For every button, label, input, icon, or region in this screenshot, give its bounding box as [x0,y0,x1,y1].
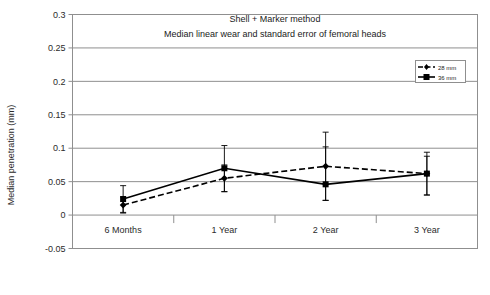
y-tick-label: 0.2 [53,77,66,87]
y-tick-label: -0.05 [45,244,66,254]
plot-frame [73,15,478,249]
legend-label-28mm: 28 mm [438,65,456,71]
y-tick-label: 0.15 [48,110,66,120]
data-point-marker [424,171,430,177]
data-point-marker [323,181,329,187]
x-category-label: 3 Year [414,225,440,235]
median-penetration-line-chart: -0.0500.050.10.150.20.250.3 6 Months1 Ye… [0,0,490,295]
chart-title: Shell + Marker method [230,14,321,24]
y-tick-label: 0.05 [48,177,66,187]
chart-subtitle: Median linear wear and standard error of… [164,29,387,39]
x-category-label: 6 Months [105,225,143,235]
y-tick-label: 0 [60,210,65,220]
data-point-marker [221,165,227,171]
legend-item-36mm[interactable]: 36 mm [418,74,456,81]
y-axis-ticks: -0.0500.050.10.150.20.250.3 [45,10,73,254]
y-tick-label: 0.25 [48,43,66,53]
legend-square-marker-icon [424,74,430,80]
y-tick-label: 0.1 [53,143,66,153]
y-tick-label: 0.3 [53,10,66,20]
y-axis-label: Median penetration (mm) [6,105,16,206]
data-point-marker [120,196,126,202]
legend-label-36mm: 36 mm [438,75,456,81]
chart-legend[interactable]: 28 mm 36 mm [416,61,466,83]
x-category-label: 2 Year [313,225,339,235]
chart-container: -0.0500.050.10.150.20.250.3 6 Months1 Ye… [0,0,490,295]
x-category-label: 1 Year [212,225,238,235]
